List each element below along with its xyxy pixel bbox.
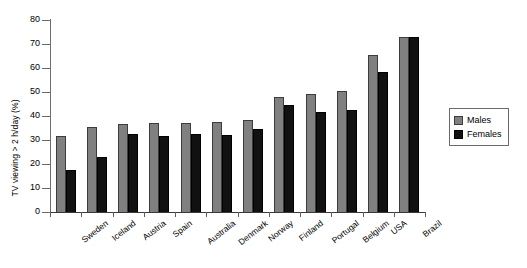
y-tick-30 bbox=[42, 140, 50, 141]
y-tick-label-20: 20 bbox=[6, 159, 40, 168]
bar-denmark-males bbox=[212, 122, 222, 212]
bar-chart: TV viewing > 2 h/day (%) 010203040506070… bbox=[0, 0, 527, 268]
bar-iceland-males bbox=[87, 127, 97, 212]
bar-group bbox=[206, 20, 237, 212]
y-tick-label-wrap-10: 10 bbox=[0, 183, 40, 192]
y-tick-label-wrap-30: 30 bbox=[0, 135, 40, 144]
bar-austria-females bbox=[128, 134, 138, 212]
bar-group bbox=[238, 20, 269, 212]
y-tick-label-30: 30 bbox=[6, 135, 40, 144]
bar-group bbox=[331, 20, 362, 212]
x-label-denmark: Denmark bbox=[236, 218, 269, 247]
bar-australia-females bbox=[191, 134, 201, 212]
y-tick-label-wrap-50: 50 bbox=[0, 87, 40, 96]
bar-portugal-males bbox=[306, 94, 316, 212]
y-tick-label-wrap-80: 80 bbox=[0, 15, 40, 24]
bar-usa-females bbox=[378, 72, 388, 212]
y-tick-70 bbox=[42, 44, 50, 45]
x-label-spain: Spain bbox=[171, 218, 194, 239]
bar-group bbox=[50, 20, 81, 212]
legend-label-females: Females bbox=[467, 130, 502, 139]
y-tick-0 bbox=[42, 212, 50, 213]
y-tick-label-40: 40 bbox=[6, 111, 40, 120]
bar-austria-males bbox=[118, 124, 128, 212]
y-tick-label-80: 80 bbox=[6, 15, 40, 24]
y-tick-label-wrap-40: 40 bbox=[0, 111, 40, 120]
bar-group bbox=[394, 20, 425, 212]
y-tick-label-wrap-20: 20 bbox=[0, 159, 40, 168]
y-tick-20 bbox=[42, 164, 50, 165]
x-label-brazil: Brazil bbox=[421, 218, 444, 239]
x-label-sweden: Sweden bbox=[79, 218, 109, 245]
y-tick-50 bbox=[42, 92, 50, 93]
x-label-belgium: Belgium bbox=[360, 218, 390, 245]
x-label-iceland: Iceland bbox=[110, 218, 138, 243]
x-label-portugal: Portugal bbox=[329, 218, 360, 245]
bar-iceland-females bbox=[97, 157, 107, 212]
y-tick-label-70: 70 bbox=[6, 39, 40, 48]
y-tick-60 bbox=[42, 68, 50, 69]
legend-swatch-males bbox=[454, 116, 463, 125]
bar-group bbox=[363, 20, 394, 212]
bar-finland-males bbox=[274, 97, 284, 212]
x-label-austria: Austria bbox=[141, 218, 168, 242]
bar-norway-females bbox=[253, 129, 263, 212]
legend-item-males: Males bbox=[454, 113, 502, 127]
bar-finland-females bbox=[284, 105, 294, 212]
bar-brazil-males bbox=[399, 37, 409, 212]
bar-group bbox=[300, 20, 331, 212]
legend-swatch-females bbox=[454, 130, 463, 139]
x-axis-labels: SwedenIcelandAustriaSpainAustraliaDenmar… bbox=[50, 214, 425, 268]
legend-item-females: Females bbox=[454, 127, 502, 141]
bar-sweden-males bbox=[56, 136, 66, 212]
bar-spain-females bbox=[159, 136, 169, 212]
y-tick-label-60: 60 bbox=[6, 63, 40, 72]
legend-label-males: Males bbox=[467, 116, 491, 125]
y-tick-label-50: 50 bbox=[6, 87, 40, 96]
bar-group bbox=[175, 20, 206, 212]
bar-spain-males bbox=[149, 123, 159, 212]
bar-portugal-females bbox=[316, 112, 326, 212]
y-tick-10 bbox=[42, 188, 50, 189]
y-tick-label-wrap-0: 0 bbox=[0, 207, 40, 216]
bar-group bbox=[81, 20, 112, 212]
bar-belgium-females bbox=[347, 110, 357, 212]
bar-australia-males bbox=[181, 123, 191, 212]
x-tick bbox=[425, 212, 426, 217]
bar-group bbox=[144, 20, 175, 212]
y-tick-80 bbox=[42, 20, 50, 21]
bar-group bbox=[269, 20, 300, 212]
y-tick-label-0: 0 bbox=[6, 207, 40, 216]
bar-denmark-females bbox=[222, 135, 232, 212]
y-tick-label-wrap-60: 60 bbox=[0, 63, 40, 72]
y-tick-label-10: 10 bbox=[6, 183, 40, 192]
y-tick-40 bbox=[42, 116, 50, 117]
bar-group bbox=[113, 20, 144, 212]
x-label-usa: USA bbox=[389, 218, 409, 237]
bar-brazil-females bbox=[409, 37, 419, 212]
y-tick-label-wrap-70: 70 bbox=[0, 39, 40, 48]
bar-groups bbox=[50, 20, 425, 212]
x-label-australia: Australia bbox=[205, 218, 237, 246]
bar-sweden-females bbox=[66, 170, 76, 212]
x-label-norway: Norway bbox=[266, 218, 295, 244]
x-label-finland: Finland bbox=[297, 218, 325, 243]
bar-belgium-males bbox=[337, 91, 347, 212]
chart-legend: Males Females bbox=[449, 108, 509, 146]
bar-norway-males bbox=[243, 120, 253, 212]
bar-usa-males bbox=[368, 55, 378, 212]
